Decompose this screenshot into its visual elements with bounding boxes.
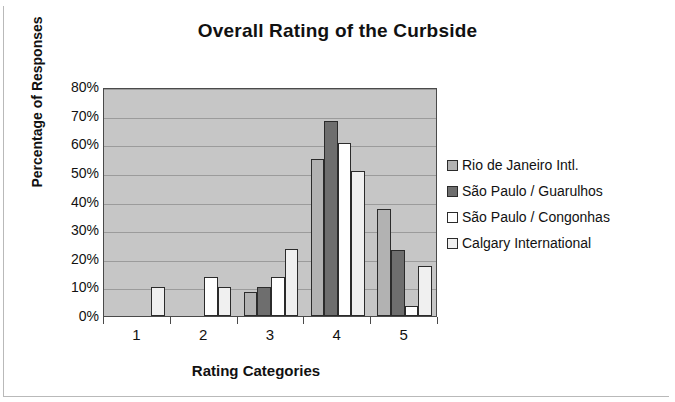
chart-title: Overall Rating of the Curbside xyxy=(0,20,675,42)
bar xyxy=(244,292,258,316)
bar xyxy=(204,277,218,316)
legend-label: Calgary International xyxy=(462,236,591,250)
legend-label: Rio de Janeiro Intl. xyxy=(462,158,579,172)
legend-swatch-icon xyxy=(447,186,458,197)
x-axis-tickmark xyxy=(103,317,104,324)
bar xyxy=(218,287,232,316)
bar xyxy=(285,249,299,316)
bar-group xyxy=(171,89,238,316)
legend-item[interactable]: São Paulo / Congonhas xyxy=(447,204,665,230)
bar-group xyxy=(304,89,371,316)
bar xyxy=(151,287,165,316)
bar xyxy=(405,306,419,316)
x-axis-tick-label: 3 xyxy=(237,326,304,343)
x-axis-tickmark xyxy=(170,317,171,324)
y-axis-tick-label: 30% xyxy=(43,222,99,238)
y-axis-tick-label: 10% xyxy=(43,279,99,295)
bar-groups xyxy=(104,89,436,316)
chart-legend: Rio de Janeiro Intl.São Paulo / Guarulho… xyxy=(447,152,665,256)
bar xyxy=(257,287,271,316)
bar-group xyxy=(238,89,305,316)
y-axis-tick-label: 20% xyxy=(43,251,99,267)
y-axis-tick-label: 0% xyxy=(43,308,99,324)
x-axis-tickmark xyxy=(237,317,238,324)
legend-item[interactable]: Rio de Janeiro Intl. xyxy=(447,152,665,178)
bar xyxy=(418,266,432,316)
x-axis-tickmark xyxy=(370,317,371,324)
y-axis-tick-label: 50% xyxy=(43,165,99,181)
y-axis-tick-label: 60% xyxy=(43,136,99,152)
bar xyxy=(338,143,352,316)
x-axis-title: Rating Categories xyxy=(86,362,426,379)
x-axis-tick-label: 1 xyxy=(103,326,170,343)
x-axis-tick-label: 4 xyxy=(303,326,370,343)
plot-area xyxy=(103,88,437,317)
bar-group xyxy=(104,89,171,316)
bar xyxy=(391,250,405,316)
bar xyxy=(324,121,338,316)
y-axis-tick-label: 70% xyxy=(43,108,99,124)
x-axis-tickmarks xyxy=(103,317,437,325)
x-axis-tick-label: 2 xyxy=(170,326,237,343)
legend-label: São Paulo / Congonhas xyxy=(462,210,610,224)
y-axis-tick-label: 80% xyxy=(43,79,99,95)
legend-label: São Paulo / Guarulhos xyxy=(462,184,603,198)
legend-swatch-icon xyxy=(447,160,458,171)
bar xyxy=(311,159,325,316)
bar-group xyxy=(371,89,438,316)
x-axis-tick-labels: 12345 xyxy=(103,326,437,348)
bar xyxy=(271,277,285,316)
legend-swatch-icon xyxy=(447,238,458,249)
x-axis-tickmark xyxy=(437,317,438,324)
legend-item[interactable]: São Paulo / Guarulhos xyxy=(447,178,665,204)
chart-figure: Overall Rating of the Curbside Percentag… xyxy=(0,0,675,402)
bar xyxy=(377,209,391,316)
bar xyxy=(351,171,365,316)
legend-swatch-icon xyxy=(447,212,458,223)
legend-item[interactable]: Calgary International xyxy=(447,230,665,256)
x-axis-tick-label: 5 xyxy=(370,326,437,343)
y-axis-tick-label: 40% xyxy=(43,194,99,210)
x-axis-tickmark xyxy=(303,317,304,324)
